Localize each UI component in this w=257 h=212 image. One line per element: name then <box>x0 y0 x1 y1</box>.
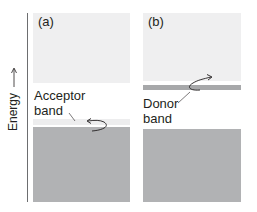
donor-transition-arrow-icon <box>189 77 211 90</box>
transition-arrows <box>0 0 257 212</box>
acceptor-transition-arrow-icon <box>88 120 106 131</box>
donor-leader-line <box>178 92 190 103</box>
acceptor-leader-line <box>69 113 75 121</box>
